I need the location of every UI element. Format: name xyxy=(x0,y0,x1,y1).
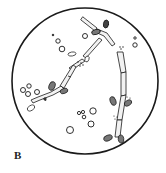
hypha-left-diagonal xyxy=(31,38,102,103)
field-of-view-circle xyxy=(12,8,158,154)
panel-label: B xyxy=(14,149,21,161)
microscope-field-illustration xyxy=(0,0,166,173)
hypha-right-vertical xyxy=(115,52,126,137)
